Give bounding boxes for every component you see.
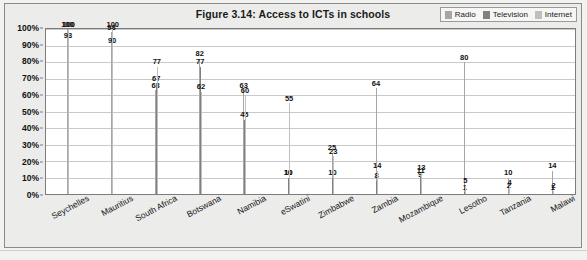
y-axis: 0%10%20%30%40%50%60%70%80%90%100% bbox=[5, 28, 43, 195]
legend-swatch-icon bbox=[535, 11, 542, 19]
bar[interactable] bbox=[157, 67, 158, 194]
y-axis-tick-label: 50% bbox=[22, 107, 39, 117]
x-axis-label-eswatini: eSwatini bbox=[279, 193, 312, 217]
y-axis-tick-label: 80% bbox=[22, 56, 39, 66]
bar-group: 64814 bbox=[361, 29, 393, 194]
bar-value-label: 14 bbox=[373, 162, 381, 170]
bar[interactable] bbox=[333, 156, 334, 194]
x-axis-label-south-africa: South Africa bbox=[134, 193, 179, 223]
y-axis-tick-mark bbox=[40, 178, 43, 179]
bar-value-label: 62 bbox=[197, 83, 205, 91]
bar-group: 827762 bbox=[184, 29, 216, 194]
bar-internet-lesotho[interactable]: 5 bbox=[465, 29, 466, 194]
legend-swatch-icon bbox=[483, 11, 490, 19]
x-axis-label-zimbabwe: Zimbabwe bbox=[317, 193, 356, 220]
x-axis-label-seychelles: Seychelles bbox=[49, 193, 90, 221]
bar-internet-malawi[interactable]: 2 bbox=[553, 29, 554, 194]
bar-value-label: 2 bbox=[551, 182, 555, 190]
figure-container: Figure 3.14: Access to ICTs in schools R… bbox=[0, 0, 587, 260]
x-axis-label-botswana: Botswana bbox=[185, 193, 223, 219]
y-axis-tick-label: 20% bbox=[22, 157, 39, 167]
y-axis-tick-mark bbox=[40, 61, 43, 62]
bar-group: 101055 bbox=[273, 29, 305, 194]
bar-internet-eswatini[interactable]: 55 bbox=[289, 29, 290, 194]
figure-frame: Figure 3.14: Access to ICTs in schools R… bbox=[4, 3, 582, 248]
x-axis-label-lesotho: Lesotho bbox=[457, 193, 488, 216]
page-divider bbox=[0, 250, 587, 251]
bar-value-label: 13 bbox=[417, 164, 425, 172]
y-axis-tick-mark bbox=[40, 195, 43, 196]
legend-label: Television bbox=[493, 10, 528, 19]
y-axis-tick-mark bbox=[40, 78, 43, 79]
y-axis-tick-label: 60% bbox=[22, 90, 39, 100]
bar-internet-namibia[interactable]: 60 bbox=[245, 29, 246, 194]
y-axis-tick-label: 0% bbox=[27, 190, 39, 200]
bar[interactable] bbox=[68, 29, 69, 194]
x-axis-label-malawi: Malawi bbox=[549, 193, 577, 214]
bar-internet-mauritius[interactable]: 100 bbox=[112, 29, 113, 194]
bar-group: 1024 bbox=[493, 29, 525, 194]
bar[interactable] bbox=[245, 95, 246, 194]
bar[interactable] bbox=[421, 173, 422, 194]
y-axis-tick-label: 10% bbox=[22, 173, 39, 183]
bar[interactable] bbox=[377, 171, 378, 194]
legend-entry-radio: Radio bbox=[445, 10, 476, 19]
legend-entry-television: Television bbox=[483, 10, 528, 19]
bar[interactable] bbox=[289, 103, 290, 194]
bar-value-label: 100 bbox=[106, 21, 119, 29]
x-axis-label-mauritius: Mauritius bbox=[100, 193, 135, 218]
y-axis-tick-label: 70% bbox=[22, 73, 39, 83]
bar-value-label: 100 bbox=[62, 21, 75, 29]
bar-internet-tanzania[interactable]: 4 bbox=[509, 29, 510, 194]
y-axis-tick-label: 40% bbox=[22, 123, 39, 133]
x-axis: SeychellesMauritiusSouth AfricaBotswanaN… bbox=[45, 193, 576, 241]
bar-value-label: 77 bbox=[153, 58, 161, 66]
bar-value-label: 60 bbox=[241, 87, 249, 95]
y-axis-tick-mark bbox=[40, 94, 43, 95]
bar-value-label: 23 bbox=[329, 148, 337, 156]
bar-internet-zambia[interactable]: 14 bbox=[377, 29, 378, 194]
bar-internet-mozambique[interactable]: 13 bbox=[421, 29, 422, 194]
bar[interactable] bbox=[112, 29, 113, 194]
y-axis-tick-label: 100% bbox=[17, 23, 39, 33]
y-axis-tick-mark bbox=[40, 44, 43, 45]
x-axis-label-namibia: Namibia bbox=[235, 193, 267, 216]
x-axis-label-zambia: Zambia bbox=[370, 193, 400, 215]
y-axis-tick-mark bbox=[40, 144, 43, 145]
bar-group: 8015 bbox=[449, 29, 481, 194]
bar-internet-seychelles[interactable]: 100 bbox=[68, 29, 69, 194]
bar-group: 10093100 bbox=[52, 29, 84, 194]
bar-group: 91113 bbox=[405, 29, 437, 194]
y-axis-tick-label: 30% bbox=[22, 140, 39, 150]
bar-internet-zimbabwe[interactable]: 23 bbox=[333, 29, 334, 194]
legend-swatch-icon bbox=[445, 11, 452, 19]
bar[interactable] bbox=[201, 92, 202, 194]
bar-value-label: 55 bbox=[285, 95, 293, 103]
y-axis-tick-mark bbox=[40, 28, 43, 29]
bar-internet-south-africa[interactable]: 77 bbox=[157, 29, 158, 194]
bar-group: 251023 bbox=[317, 29, 349, 194]
bar-group: 1412 bbox=[537, 29, 569, 194]
bars-layer: 1009310098901006367778277626345601010552… bbox=[46, 29, 575, 194]
bar-value-label: 4 bbox=[507, 179, 511, 187]
legend-entry-internet: Internet bbox=[535, 10, 572, 19]
x-axis-label-mozambique: Mozambique bbox=[397, 193, 445, 225]
chart-header: Figure 3.14: Access to ICTs in schools R… bbox=[5, 4, 581, 26]
y-axis-tick-label: 90% bbox=[22, 40, 39, 50]
y-axis-tick-mark bbox=[40, 111, 43, 112]
bar-group: 636777 bbox=[140, 29, 172, 194]
y-axis-tick-mark bbox=[40, 128, 43, 129]
bar-group: 9890100 bbox=[96, 29, 128, 194]
chart-legend: RadioTelevisionInternet bbox=[440, 7, 577, 22]
x-axis-label-tanzania: Tanzania bbox=[498, 193, 533, 218]
bar-value-label: 5 bbox=[463, 177, 467, 185]
bar-group: 634560 bbox=[229, 29, 261, 194]
legend-label: Radio bbox=[455, 10, 476, 19]
bar-internet-botswana[interactable]: 62 bbox=[201, 29, 202, 194]
plot-area: 1009310098901006367778277626345601010552… bbox=[45, 28, 576, 195]
y-axis-tick-mark bbox=[40, 161, 43, 162]
legend-label: Internet bbox=[545, 10, 572, 19]
